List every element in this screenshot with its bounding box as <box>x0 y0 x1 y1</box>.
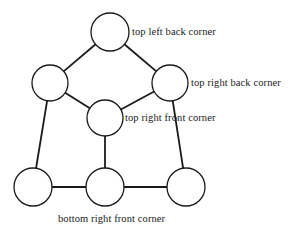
node-bottom-middle[interactable] <box>86 168 124 206</box>
label-bottom-right-front-corner: bottom right front corner <box>58 214 165 225</box>
node-bottom-right[interactable] <box>167 168 205 206</box>
edge-left-middle-to-top-right-front <box>65 92 90 108</box>
node-bottom-left-front[interactable] <box>14 168 52 206</box>
node-top-right-back[interactable] <box>152 65 188 101</box>
edge-top-left-back-to-top-right-back <box>124 44 157 72</box>
nodes-group <box>14 13 205 206</box>
edge-top-right-back-to-top-right-front <box>120 91 154 109</box>
node-top-right-front[interactable] <box>87 100 123 136</box>
edge-top-right-back-to-bottom-right <box>173 100 184 168</box>
node-left-middle[interactable] <box>32 65 68 101</box>
edge-left-middle-to-bottom-left-front <box>36 100 47 168</box>
diagram-canvas: top left back corner top right back corn… <box>0 0 305 235</box>
node-top-left-back[interactable] <box>91 13 129 51</box>
label-top-right-front-corner: top right front corner <box>125 113 216 124</box>
edge-top-left-back-to-left-middle <box>63 44 96 72</box>
label-top-right-back-corner: top right back corner <box>191 78 281 89</box>
label-top-left-back-corner: top left back corner <box>132 27 216 38</box>
